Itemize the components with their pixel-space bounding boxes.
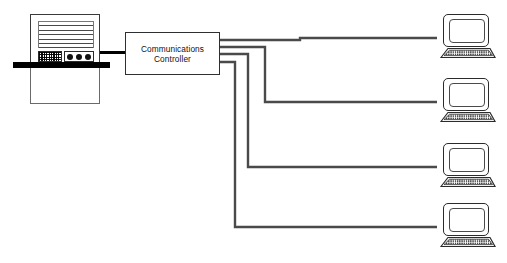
terminal-screen [449,19,485,43]
terminal-link-2 [220,47,437,102]
terminal-1 [435,14,497,62]
terminal-3 [435,143,497,191]
connection-lines [0,0,507,263]
terminal-keyboard-icon [435,176,497,188]
terminal-link-3 [220,54,437,167]
terminal-screen [449,148,485,172]
network-diagram-canvas: Communications Controller [0,0,507,263]
terminal-monitor-icon [443,78,489,111]
terminal-screen [449,83,485,107]
terminal-screen [449,208,485,232]
terminal-4 [435,203,497,251]
terminal-keyboard-icon [435,47,497,59]
terminal-keyboard-icon [435,111,497,123]
terminal-keyboard-icon [435,236,497,248]
terminal-monitor-icon [443,143,489,176]
terminal-link-1 [220,38,437,40]
terminal-monitor-icon [443,14,489,47]
terminal-link-4 [220,62,437,227]
terminal-2 [435,78,497,126]
terminal-monitor-icon [443,203,489,236]
